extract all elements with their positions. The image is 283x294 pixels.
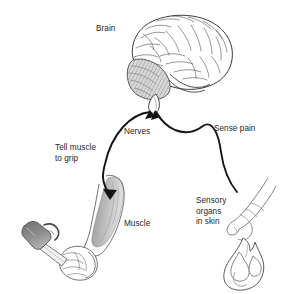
hand-forearm-bottom [239,186,276,229]
label-tell-muscle-to-grip: Tell muscle to grip [55,143,96,164]
brain-illustration [127,15,232,113]
arrow-hand-to-brain [151,110,237,192]
flame-illustration [224,238,264,290]
hand-forearm-top [232,178,268,222]
label-sense-pain: Sense pain [214,124,255,135]
label-muscle: Muscle [124,219,150,230]
muscle-shaded [92,177,124,247]
hammer-illustration [22,222,67,267]
index-finger-tip [227,222,239,235]
label-brain: Brain [96,24,115,35]
diagram-canvas [0,0,283,294]
reflex-pathway-diagram: Brain Nerves Sense pain Tell muscle to g… [0,0,283,294]
label-nerves: Nerves [124,127,150,138]
label-sensory-organs-in-skin: Sensory organs in skin [196,196,226,228]
